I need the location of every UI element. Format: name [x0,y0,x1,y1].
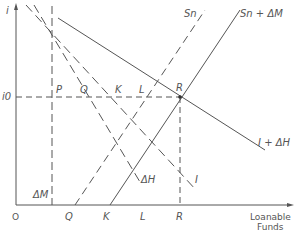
x-axis-label-line1: Loanable [250,212,291,222]
point-r [178,95,182,99]
i-dh-label: I + ΔH [258,137,291,148]
label-l-mid: L [139,84,145,95]
label-p: P [56,84,63,95]
label-k-mid: K [115,84,123,95]
y-axis-arrow [14,3,18,10]
x-tick-l: L [140,211,146,222]
x-tick-k: K [103,211,111,222]
origin-label: O [12,212,19,222]
sn-label: Sn [184,8,197,19]
x-tick-q: Q [65,211,73,222]
x-axis-arrow [287,203,294,207]
x-axis-label-line2: Funds [257,222,284,230]
label-q-mid: Q [80,84,88,95]
label-r-mid: R [176,82,183,93]
i0-label: i0 [2,91,11,102]
x-tick-r: R [176,211,183,222]
dm-label: ΔM [32,189,49,200]
sn-dm-label: Sn + ΔM [240,8,283,19]
i-dh-curve [58,18,265,150]
sn-dm-curve [110,10,240,205]
sn-curve [75,10,205,205]
y-axis-label: i [6,5,9,16]
dh-label: ΔH [140,174,156,185]
i-label: I [195,174,198,185]
loanable-funds-diagram: i i0 O P Q K L R Q K L R Sn Sn + ΔM I + … [0,0,298,230]
